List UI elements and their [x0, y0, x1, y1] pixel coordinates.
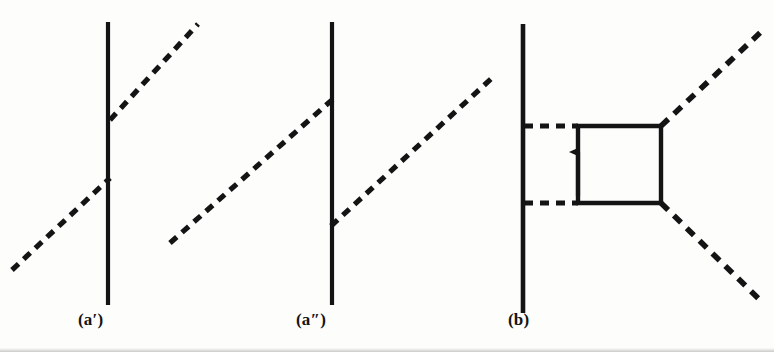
boson-line-lower-a-prime	[12, 178, 110, 270]
panel-label-b: (b)	[508, 310, 529, 330]
panel-b	[523, 24, 762, 313]
feynman-diagram-figure: (a′) (a″) (b)	[0, 0, 774, 352]
panel-a-double-prime	[170, 22, 492, 305]
boson-line-lower-a-double-prime	[331, 78, 492, 226]
boson-out-upper-b	[661, 31, 762, 126]
boson-out-lower-b	[661, 203, 761, 301]
boson-line-upper-a-prime	[110, 24, 198, 120]
panel-a-prime	[12, 22, 198, 305]
boson-line-upper-a-double-prime	[170, 99, 333, 243]
panel-label-a-double-prime: (a″)	[296, 310, 326, 330]
diagram-canvas	[0, 0, 774, 352]
panel-label-a-prime: (a′)	[78, 310, 103, 330]
